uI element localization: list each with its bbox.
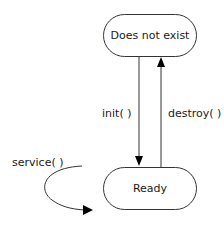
state-label: Does not exist: [111, 29, 190, 42]
init-label: init( ): [102, 108, 131, 119]
service-transition-loop: [45, 166, 84, 210]
state-label: Ready: [133, 182, 167, 195]
state-ready: Ready: [103, 167, 197, 210]
destroy-label: destroy( ): [168, 108, 221, 119]
service-arrowhead-icon: [83, 205, 93, 215]
init-arrowhead-icon: [135, 156, 143, 166]
state-does-not-exist: Does not exist: [103, 14, 197, 57]
service-label: service( ): [12, 157, 63, 168]
destroy-arrowhead-icon: [157, 57, 165, 67]
